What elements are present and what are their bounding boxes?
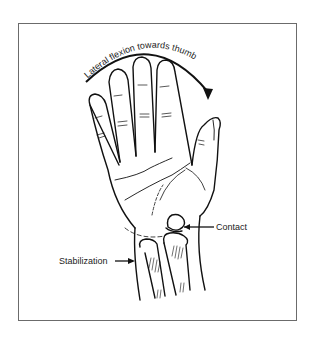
hand-illustration: Lateral flexion towards thumb [0, 0, 316, 337]
wrist-bones [135, 215, 190, 300]
stabilization-label: Stabilization [59, 256, 108, 266]
contact-label: Contact [216, 222, 247, 232]
arc-label: Lateral flexion towards thumb [82, 40, 198, 80]
hand-outline [89, 57, 220, 290]
